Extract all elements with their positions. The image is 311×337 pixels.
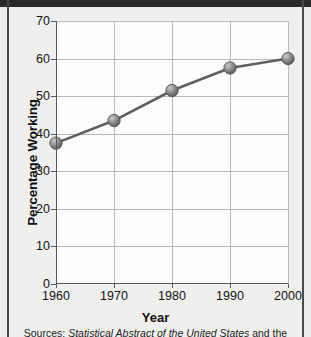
figure-right-border: [302, 0, 304, 337]
source-note-title: Statistical Abstract of the United State…: [68, 327, 249, 337]
y-tick-label: 30: [36, 164, 50, 178]
chart-panel: Percentage Working 010203040506070 19601…: [9, 7, 302, 337]
x-tick-label: 1960: [42, 289, 70, 303]
x-tick-mark: [230, 284, 231, 288]
y-tick-label: 50: [36, 89, 50, 103]
source-note: Sources: Statistical Abstract of the Uni…: [9, 327, 302, 337]
y-tick-label: 40: [36, 127, 50, 141]
y-tick-label: 20: [36, 202, 50, 216]
x-tick-mark: [288, 284, 289, 288]
data-point-marker: [166, 84, 178, 96]
x-tick-label: 1990: [216, 289, 244, 303]
data-point-marker: [282, 52, 294, 64]
x-axis-title: Year: [9, 310, 302, 325]
x-tick-label: 2000: [274, 289, 302, 303]
data-point-marker: [108, 114, 120, 126]
y-tick-label: 70: [36, 14, 50, 28]
source-note-prefix: Sources:: [24, 327, 65, 337]
plot-area: 010203040506070 19601970198019902000: [56, 21, 288, 284]
y-tick-label: 10: [36, 239, 50, 253]
data-series-line: [56, 21, 288, 284]
data-point-marker: [50, 137, 62, 149]
source-note-suffix: and the: [252, 327, 287, 337]
x-tick-mark: [56, 284, 57, 288]
x-tick-label: 1980: [158, 289, 186, 303]
figure-top-border: [0, 0, 311, 7]
x-tick-mark: [114, 284, 115, 288]
x-tick-label: 1970: [100, 289, 128, 303]
y-tick-label: 60: [36, 52, 50, 66]
x-tick-mark: [172, 284, 173, 288]
data-point-marker: [224, 62, 236, 74]
chart-figure: Percentage Working 010203040506070 19601…: [0, 0, 311, 337]
